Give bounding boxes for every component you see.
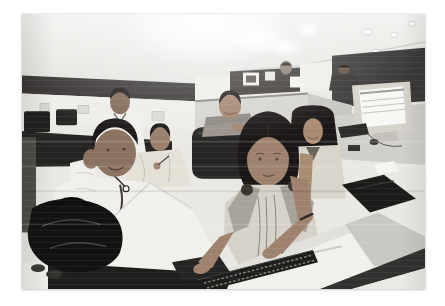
office-photograph <box>22 14 425 289</box>
spotlight-icon <box>408 21 416 26</box>
page: { "window": { "width": 445, "height": 30… <box>0 0 445 306</box>
right-desk-bag-body <box>342 175 416 213</box>
right-woman-head <box>303 118 323 144</box>
right-desk-bag <box>342 175 416 213</box>
panel-white-right <box>300 62 332 92</box>
spotlight-icon <box>362 29 372 35</box>
eye <box>122 147 125 150</box>
monitor-left-1 <box>24 111 50 132</box>
dupatta-knot-left <box>241 184 253 196</box>
light-bloom-far <box>296 22 320 38</box>
pinned-paper <box>152 111 164 120</box>
photo-scene <box>22 14 425 289</box>
desk-phone <box>348 145 360 151</box>
eye <box>275 157 278 160</box>
pinned-paper <box>78 105 89 113</box>
framed-picture-small <box>265 72 275 81</box>
papers-stack <box>290 77 303 88</box>
monitor-left-2 <box>56 109 77 125</box>
eye <box>106 148 109 151</box>
light-bloom-small <box>268 37 302 57</box>
framed-picture-image <box>246 76 256 83</box>
small-item <box>46 270 62 279</box>
paper-sheet <box>374 161 398 175</box>
small-item <box>31 264 45 272</box>
spotlight-icon <box>390 32 398 37</box>
eye <box>258 157 261 160</box>
